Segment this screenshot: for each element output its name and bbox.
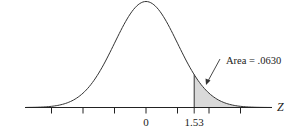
annotation-arrow-line	[208, 59, 220, 81]
tick-label-z: 1.53	[184, 116, 204, 128]
axis-ticks	[52, 108, 241, 114]
tick-label-zero: 0	[143, 116, 149, 128]
arrowhead-icon	[206, 79, 211, 86]
normal-distribution-chart: 0 1.53 Z Area = .0630	[0, 0, 300, 137]
area-annotation: Area = .0630	[226, 55, 281, 66]
axis-label-z: Z	[277, 100, 284, 114]
